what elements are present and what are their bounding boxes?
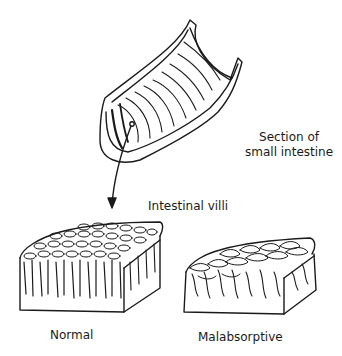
normal-label: Normal bbox=[50, 328, 93, 343]
section-label-line2: small intestine bbox=[245, 145, 333, 160]
normal-villi-illustration bbox=[20, 222, 163, 312]
villi-label: Intestinal villi bbox=[148, 199, 228, 214]
section-label: Section of small intestine bbox=[245, 130, 333, 160]
section-label-line1: Section of bbox=[245, 130, 333, 145]
diagram-canvas bbox=[0, 0, 342, 356]
intestine-section-illustration bbox=[100, 20, 242, 208]
malabsorptive-label: Malabsorptive bbox=[198, 330, 283, 345]
malabsorptive-villi-illustration bbox=[184, 238, 316, 314]
